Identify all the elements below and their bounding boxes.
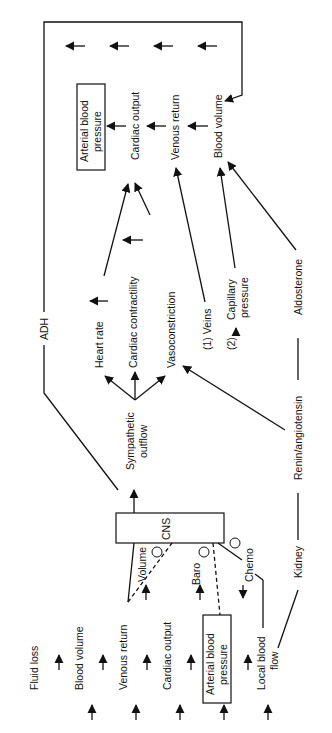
inhibit-chemo-icon [230, 538, 240, 548]
label-adh: ADH [38, 318, 50, 340]
receptors: Volume Baro Chemo [128, 538, 263, 628]
label-abp-top-1: Arterial blood [78, 100, 90, 162]
label-veins: (1) Veins [201, 309, 213, 350]
label-venous-return-top: Venous return [169, 94, 181, 160]
top-chain: Arterial blood pressure Cardiac output V… [66, 46, 224, 170]
label-capillary-1: Capillary [225, 278, 237, 320]
label-abp-bottom-1: Arterial blood [204, 633, 216, 695]
diagram-canvas: Fluid loss Blood volume Venous return Ca… [0, 0, 332, 733]
inhibit-baro-icon [199, 547, 209, 557]
label-kidney: Kidney [292, 545, 304, 578]
label-cns: CNS [160, 518, 172, 540]
label-capillary-2: pressure [238, 277, 250, 318]
label-vasoconstriction: Vasoconstriction [165, 292, 177, 368]
label-contractility: Cardiac contractility [127, 276, 139, 368]
label-sympathetic-1: Sympathetic [124, 412, 136, 470]
label-lbf-2: flow [268, 651, 280, 670]
label-capillary-num: (2) [225, 337, 237, 350]
inhibit-volume-icon [152, 547, 162, 557]
label-cardiac-output-bottom: Cardiac output [161, 622, 173, 690]
label-venous-return-bottom: Venous return [117, 624, 129, 690]
label-chemo: Chemo [243, 548, 255, 582]
label-abp-top-2: pressure [91, 111, 103, 152]
label-abp-bottom-2: pressure [217, 644, 229, 685]
label-aldosterone: Aldosterone [292, 259, 304, 315]
label-fluid-loss: Fluid loss [28, 646, 40, 690]
label-heart-rate: Heart rate [93, 321, 105, 368]
label-renin: Renin/angiotensin [292, 396, 304, 480]
label-blood-volume-bottom: Blood volume [73, 626, 85, 690]
label-lbf-1: Local blood [255, 636, 267, 690]
bottom-chain: Fluid loss Blood volume Venous return Ca… [28, 615, 280, 703]
label-baro: Baro [190, 563, 202, 585]
label-sympathetic-2: outflow [137, 424, 149, 458]
label-blood-volume-top: Blood volume [212, 94, 224, 158]
label-cardiac-output-top: Cardiac output [129, 92, 141, 160]
